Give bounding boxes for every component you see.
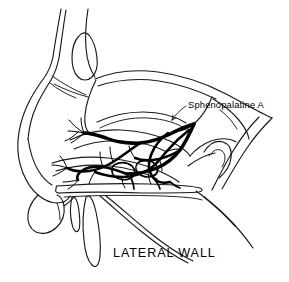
upper-lip-alveolus <box>28 195 74 233</box>
label-leader-line <box>172 106 186 120</box>
lateral-wall-figure: Sphenopalatine A LATERAL WALL <box>0 0 289 282</box>
nasal-lateral-wall-illustration <box>0 0 289 282</box>
sphenopalatine-artery-label: Sphenopalatine A <box>188 99 264 110</box>
frontal-sinus-region <box>50 9 97 98</box>
face-profile-outline <box>18 9 70 203</box>
figure-title-lateral-wall: LATERAL WALL <box>113 246 216 260</box>
cranial-base-roof <box>95 71 272 118</box>
hard-palate <box>56 184 203 200</box>
artery-fine-twigs <box>52 118 178 189</box>
nasopharynx-torus-tubarius <box>188 117 272 248</box>
